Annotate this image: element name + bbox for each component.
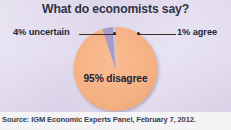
label-disagree: 95% disagree	[0, 73, 231, 84]
chart-figure: What do economists say? 4% uncertain 1% …	[0, 0, 231, 130]
pie-slice-disagree	[74, 27, 158, 111]
label-agree: 1% agree	[177, 27, 217, 37]
leader-line-uncertain	[79, 34, 116, 35]
chart-title: What do economists say?	[0, 2, 231, 16]
source-note: Source: IGM Economic Experts Panel, Febr…	[2, 115, 196, 124]
leader-line-agree	[139, 34, 176, 35]
label-uncertain: 4% uncertain	[13, 27, 70, 37]
pie-chart	[62, 24, 170, 114]
pie-slices	[74, 27, 158, 111]
